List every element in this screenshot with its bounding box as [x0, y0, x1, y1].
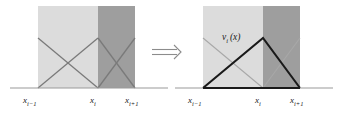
implies-arrow: [152, 45, 181, 59]
left-panel-right-cell-shading: [98, 6, 135, 88]
left-panel-tick-label-x-i: xi: [89, 95, 96, 107]
left-panel: xi−1 xi xi+1: [10, 6, 168, 107]
left-panel-tick-label-x-i-plus-1: xi+1: [124, 95, 138, 107]
right-panel-tick-label-x-i: xi: [254, 95, 261, 107]
right-panel-tick-label-x-i-plus-1: xi+1: [289, 95, 303, 107]
implies-arrow-head: [174, 45, 181, 59]
left-panel-tick-label-x-i-minus-1: xi−1: [22, 95, 36, 107]
right-panel-hat-function-label: vi (x): [222, 32, 240, 44]
right-panel-tick-label-x-i-minus-1: xi−1: [187, 95, 201, 107]
figure-svg: xi−1 xi xi+1 vi (x): [0, 0, 355, 116]
figure-container: xi−1 xi xi+1 vi (x): [0, 0, 355, 116]
left-panel-left-cell-shading: [38, 6, 98, 88]
right-panel: vi (x) xi−1 xi xi+1: [175, 6, 333, 107]
right-panel-left-cell-shading: [203, 6, 263, 88]
